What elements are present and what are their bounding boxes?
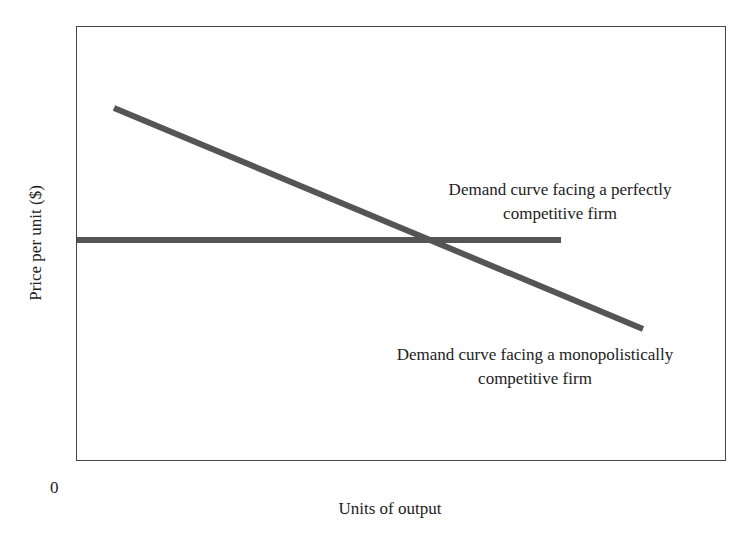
perfect-competition-annotation: Demand curve facing a perfectly competit… bbox=[449, 178, 672, 226]
annotation-line-2: competitive firm bbox=[449, 202, 672, 226]
x-axis-label: Units of output bbox=[339, 499, 442, 519]
annotation-line-1: Demand curve facing a monopolistically bbox=[397, 343, 674, 367]
y-axis-label: Price per unit ($) bbox=[26, 185, 46, 301]
demand-curves bbox=[0, 0, 747, 542]
monopolistic-competition-annotation: Demand curve facing a monopolistically c… bbox=[397, 343, 674, 391]
annotation-line-2: competitive firm bbox=[397, 367, 674, 391]
annotation-line-1: Demand curve facing a perfectly bbox=[449, 178, 672, 202]
origin-label: 0 bbox=[50, 478, 59, 498]
